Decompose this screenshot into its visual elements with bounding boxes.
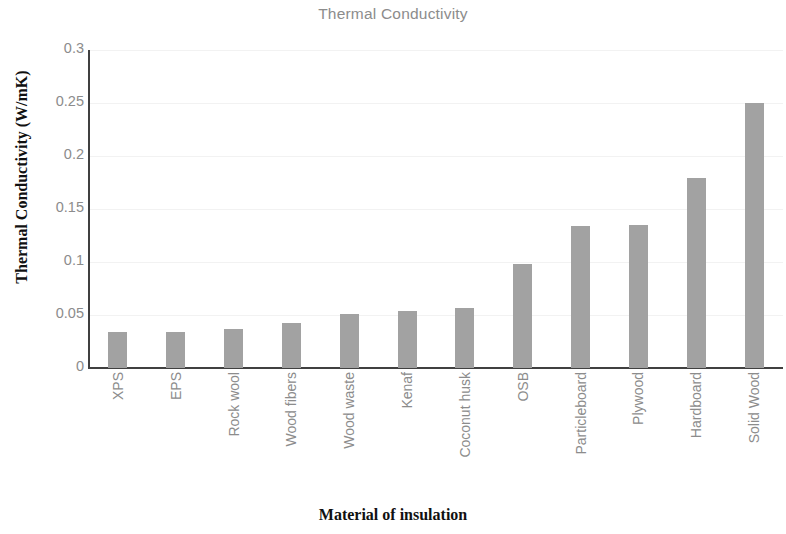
bar [629,225,648,368]
bar [571,226,590,368]
x-axis-tick-label-slot: Kenaf [398,372,417,498]
y-axis-tick-labels: 00.050.10.150.20.250.3 [20,0,84,534]
x-axis-tick-label: Particleboard [574,372,588,455]
x-axis-tick-label-slot: Rock wool [224,372,243,498]
x-axis-tick-label-slot: Coconut husk [455,372,474,498]
bar [455,308,474,368]
bar [398,311,417,368]
x-axis-tick-label: Plywood [631,372,645,425]
x-axis-title: Material of insulation [0,506,786,524]
x-axis-tick-label: XPS [111,372,125,400]
bar [166,332,185,368]
bar [687,178,706,368]
y-axis-tick-label: 0.2 [26,146,84,162]
thermal-conductivity-bar-chart: Thermal Conductivity Thermal Conductivit… [0,0,786,534]
x-axis-tick-label-slot: Plywood [629,372,648,498]
bar [340,314,359,368]
x-axis-tick-label: Wood waste [342,372,356,449]
x-axis-tick-label: Coconut husk [458,372,472,458]
x-axis-tick-label-slot: Wood waste [340,372,359,498]
x-axis-tick-label-slot: OSB [513,372,532,498]
x-axis-tick-label: OSB [516,372,530,402]
x-axis-tick-label-slot: Hardboard [687,372,706,498]
y-axis-tick-label: 0.15 [26,199,84,215]
y-axis-tick-label: 0.05 [26,305,84,321]
bar-series [89,50,783,368]
chart-title: Thermal Conductivity [0,5,786,23]
x-axis-tick-label: Rock wool [227,372,241,437]
y-axis-tick-label: 0.3 [26,40,84,56]
y-axis-tick-label: 0 [26,358,84,374]
bar [745,103,764,368]
x-axis-tick-label-slot: Solid Wood [745,372,764,498]
bar [513,264,532,368]
bar [224,329,243,368]
x-axis-tick-label-slot: Particleboard [571,372,590,498]
bar [282,323,301,368]
x-axis-tick-label-slot: XPS [108,372,127,498]
y-axis-tick-label: 0.25 [26,93,84,109]
x-axis-tick-label: Hardboard [689,372,703,438]
x-axis-tick-label-slot: EPS [166,372,185,498]
x-axis-tick-labels: XPSEPSRock woolWood fibersWood wasteKena… [89,372,783,502]
bar [108,332,127,368]
x-axis-tick-label: Solid Wood [747,372,761,443]
x-axis-tick-label: EPS [169,372,183,400]
x-axis-tick-label-slot: Wood fibers [282,372,301,498]
x-axis-tick-label: Kenaf [400,372,414,409]
y-axis-tick-label: 0.1 [26,252,84,268]
x-axis-tick-label: Wood fibers [284,372,298,446]
